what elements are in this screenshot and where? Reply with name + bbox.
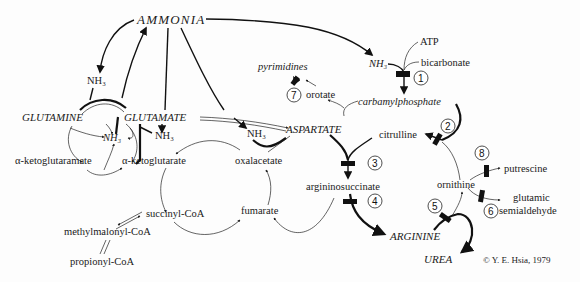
node-fumarate: fumarate — [241, 205, 279, 216]
svg-text:8: 8 — [479, 148, 485, 159]
step-3: 3 — [368, 156, 382, 170]
labels: AMMONIA NH₃ GLUTAMINE GLUTAMATE NH₃ NH₃ … — [15, 12, 557, 267]
svg-text:7: 7 — [291, 90, 297, 101]
step-4: 4 — [368, 194, 382, 208]
node-carbamylphosphate: carbamylphosphate — [358, 96, 441, 107]
svg-text:3: 3 — [372, 158, 378, 169]
node-semialdehyde: semialdehyde — [499, 205, 557, 216]
urea-cycle-diagram: AMMONIA NH₃ GLUTAMINE GLUTAMATE NH₃ NH₃ … — [0, 0, 580, 282]
node-ammonia: AMMONIA — [136, 12, 205, 27]
node-argininosuccinate: argininosuccinate — [306, 181, 380, 192]
diagram-svg: AMMONIA NH₃ GLUTAMINE GLUTAMATE NH₃ NH₃ … — [0, 0, 580, 282]
node-propionyl-coa: propionyl-CoA — [70, 256, 135, 267]
node-methylmalonyl-coa: methylmalonyl-CoA — [64, 226, 151, 237]
node-alpha-ketoglutaramate: α-ketoglutaramate — [15, 155, 92, 166]
step-5: 5 — [428, 199, 442, 213]
node-nh3-top: NH₃ — [368, 58, 388, 69]
node-nh3-glutamate: NH₃ — [155, 130, 174, 141]
node-arginine: ARGININE — [389, 230, 440, 242]
node-alpha-ketoglutarate: α-ketoglutarate — [122, 155, 186, 166]
node-nh3-aspartate: NH₃ — [247, 128, 266, 139]
step-8: 8 — [475, 146, 489, 160]
step-6: 6 — [484, 204, 498, 218]
step-7: 7 — [287, 88, 301, 102]
node-nh3-left: NH₃ — [87, 75, 106, 86]
node-orotate: orotate — [306, 89, 335, 100]
node-pyrimidines: pyrimidines — [257, 61, 308, 72]
node-bicarbonate: bicarbonate — [421, 57, 470, 68]
node-urea: UREA — [424, 253, 452, 265]
node-oxalacetate: oxalacetate — [235, 155, 283, 166]
svg-text:4: 4 — [372, 196, 378, 207]
node-glutamine: GLUTAMINE — [22, 111, 83, 123]
node-citrulline: citrulline — [379, 129, 417, 140]
urea-cycle — [290, 42, 500, 252]
node-glutamic: glutamic — [513, 192, 550, 203]
step-2: 2 — [441, 119, 455, 133]
svg-text:5: 5 — [432, 201, 438, 212]
node-atp: ATP — [420, 36, 439, 47]
svg-text:2: 2 — [445, 121, 451, 132]
node-ornithine: ornithine — [437, 179, 475, 190]
step-1: 1 — [414, 71, 428, 85]
node-aspartate: ASPARTATE — [285, 123, 342, 135]
copyright: © Y. E. Hsia, 1979 — [483, 255, 551, 265]
node-putrescine: putrescine — [504, 163, 547, 174]
node-succinyl-coa: succinyl-CoA — [146, 208, 205, 219]
svg-text:1: 1 — [418, 73, 424, 84]
svg-text:6: 6 — [488, 206, 494, 217]
node-glutamate: GLUTAMATE — [124, 111, 187, 123]
